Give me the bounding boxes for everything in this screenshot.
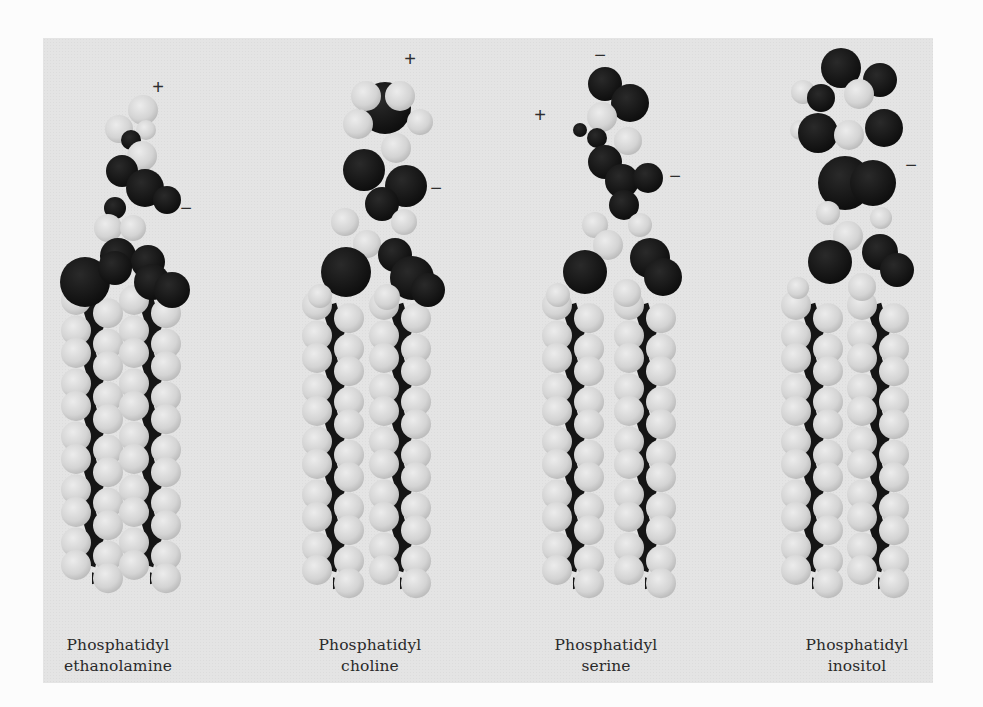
hydrogen-atom (151, 563, 181, 593)
heavy-atom (563, 250, 607, 294)
label-phosphatidyl-serine: Phosphatidyl serine (506, 635, 706, 677)
hydrogen-atom (119, 497, 149, 527)
hydrogen-atom (781, 555, 811, 585)
heavy-atom (865, 109, 903, 147)
label-line-2: choline (270, 656, 470, 677)
hydrogen-atom (119, 391, 149, 421)
hydrogen-atom (844, 79, 874, 109)
charge-negative-ps: − (669, 166, 681, 186)
hydrogen-atom (391, 209, 417, 235)
hydrogen-atom (302, 343, 332, 373)
hydrogen-atom (61, 497, 91, 527)
molecule-phosphatidyl-ethanolamine (60, 95, 190, 593)
hydrogen-atom (614, 343, 644, 373)
hydrogen-atom (302, 396, 332, 426)
heavy-atom (154, 272, 190, 308)
hydrogen-atom (646, 462, 676, 492)
hydrogen-atom (847, 449, 877, 479)
charge-negative-ps-top: − (594, 45, 606, 65)
hydrogen-atom (94, 214, 122, 242)
label-phosphatidyl-inositol: Phosphatidyl inositol (757, 635, 957, 677)
heavy-atom (343, 149, 385, 191)
hydrogen-atom (816, 201, 840, 225)
label-line-1: Phosphatidyl (757, 635, 957, 656)
heavy-atom (808, 240, 852, 284)
heavy-atom (573, 123, 587, 137)
molecule-phosphatidyl-serine (542, 67, 682, 598)
hydrogen-atom (369, 555, 399, 585)
heavy-atom (633, 163, 663, 193)
hydrogen-atom (385, 81, 415, 111)
hydrogen-atom (813, 356, 843, 386)
hydrogen-atom (351, 81, 381, 111)
label-line-2: serine (506, 656, 706, 677)
hydrogen-atom (334, 568, 364, 598)
hydrogen-atom (407, 109, 433, 135)
hydrogen-atom (334, 303, 364, 333)
heavy-atom (850, 160, 896, 206)
hydrogen-atom (542, 502, 572, 532)
hydrogen-atom (119, 338, 149, 368)
hydrogen-atom (813, 462, 843, 492)
hydrogen-atom (369, 343, 399, 373)
hydrogen-atom (61, 391, 91, 421)
hydrogen-atom (879, 356, 909, 386)
hydrogen-atom (334, 409, 364, 439)
hydrogen-atom (151, 510, 181, 540)
molecule-phosphatidyl-inositol (781, 48, 914, 598)
hydrogen-atom (93, 510, 123, 540)
hydrogen-atom (61, 550, 91, 580)
label-line-2: inositol (757, 656, 957, 677)
heavy-atom (798, 113, 838, 153)
heavy-atom (98, 251, 132, 285)
hydrogen-atom (574, 409, 604, 439)
hydrogen-atom (302, 555, 332, 585)
hydrogen-atom (614, 396, 644, 426)
label-line-2: ethanolamine (18, 656, 218, 677)
hydrogen-atom (847, 502, 877, 532)
hydrogen-atom (542, 396, 572, 426)
hydrogen-atom (302, 449, 332, 479)
hydrogen-atom (151, 404, 181, 434)
hydrogen-atom (834, 120, 864, 150)
hydrogen-atom (401, 356, 431, 386)
hydrogen-atom (813, 409, 843, 439)
hydrogen-atom (614, 449, 644, 479)
hydrogen-atom (343, 109, 373, 139)
hydrogen-atom (369, 396, 399, 426)
phospholipid-models-illustration (0, 0, 983, 707)
hydrogen-atom (574, 568, 604, 598)
label-line-1: Phosphatidyl (270, 635, 470, 656)
hydrogen-atom (401, 462, 431, 492)
hydrogen-atom (93, 404, 123, 434)
hydrogen-atom (614, 127, 642, 155)
hydrogen-atom (542, 555, 572, 585)
hydrogen-atom (847, 555, 877, 585)
hydrogen-atom (613, 279, 641, 307)
hydrogen-atom (119, 444, 149, 474)
hydrogen-atom (369, 502, 399, 532)
hydrogen-atom (781, 396, 811, 426)
hydrogen-atom (574, 303, 604, 333)
hydrogen-atom (646, 409, 676, 439)
hydrogen-atom (574, 356, 604, 386)
hydrogen-atom (781, 449, 811, 479)
hydrogen-atom (334, 515, 364, 545)
hydrogen-atom (614, 555, 644, 585)
hydrogen-atom (331, 208, 359, 236)
hydrogen-atom (879, 409, 909, 439)
hydrogen-atom (847, 343, 877, 373)
hydrogen-atom (120, 215, 146, 241)
hydrogen-atom (401, 515, 431, 545)
hydrogen-atom (813, 515, 843, 545)
hydrogen-atom (302, 502, 332, 532)
hydrogen-atom (628, 213, 652, 237)
hydrogen-atom (879, 462, 909, 492)
hydrogen-atom (308, 284, 332, 308)
hydrogen-atom (93, 563, 123, 593)
hydrogen-atom (587, 102, 617, 132)
hydrogen-atom (61, 444, 91, 474)
hydrogen-atom (646, 515, 676, 545)
label-line-1: Phosphatidyl (506, 635, 706, 656)
hydrogen-atom (847, 396, 877, 426)
